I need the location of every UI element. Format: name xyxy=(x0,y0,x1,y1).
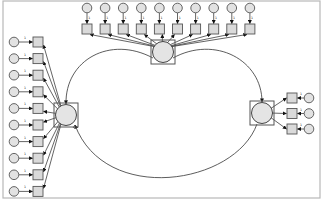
observed-variable[interactable] xyxy=(191,24,201,34)
error-term[interactable] xyxy=(9,137,19,147)
observed-variable[interactable] xyxy=(136,24,146,34)
observed-variable[interactable] xyxy=(173,24,183,34)
observed-variable[interactable] xyxy=(287,109,297,119)
error-term[interactable] xyxy=(245,3,255,13)
error-term[interactable] xyxy=(191,3,201,13)
latent-variable-right[interactable] xyxy=(252,103,273,124)
observed-variable[interactable] xyxy=(154,24,164,34)
sem-diagram-canvas: 11111111111111111111111 xyxy=(0,0,324,203)
observed-variable[interactable] xyxy=(33,70,43,80)
observed-variable[interactable] xyxy=(245,24,255,34)
error-term[interactable] xyxy=(173,3,183,13)
observed-variable[interactable] xyxy=(33,153,43,163)
observed-variable[interactable] xyxy=(33,137,43,147)
error-term[interactable] xyxy=(82,3,92,13)
loading-label: 1 xyxy=(300,92,302,96)
error-term[interactable] xyxy=(227,3,237,13)
observed-variable[interactable] xyxy=(227,24,237,34)
observed-variable[interactable] xyxy=(33,54,43,64)
loading-label: 1 xyxy=(106,16,108,20)
observed-variable[interactable] xyxy=(287,124,297,134)
observed-variable[interactable] xyxy=(33,186,43,196)
error-term[interactable] xyxy=(118,3,128,13)
latent-variable-top[interactable] xyxy=(153,42,174,63)
error-term[interactable] xyxy=(304,124,314,134)
sem-diagram: 11111111111111111111111 xyxy=(0,0,324,203)
error-term[interactable] xyxy=(9,70,19,80)
loading-label: 1 xyxy=(233,16,235,20)
observed-variable[interactable] xyxy=(209,24,219,34)
loading-label: 1 xyxy=(161,16,163,20)
error-term[interactable] xyxy=(9,170,19,180)
loading-label: 1 xyxy=(24,152,26,156)
loading-label: 1 xyxy=(300,108,302,112)
loading-label: 1 xyxy=(251,16,253,20)
loading-label: 1 xyxy=(124,16,126,20)
error-term[interactable] xyxy=(9,187,19,197)
error-term[interactable] xyxy=(9,120,19,130)
loading-label: 1 xyxy=(24,136,26,140)
loading-label: 1 xyxy=(197,16,199,20)
error-term[interactable] xyxy=(9,104,19,114)
loading-label: 1 xyxy=(179,16,181,20)
loading-label: 1 xyxy=(300,123,302,127)
error-term[interactable] xyxy=(100,3,110,13)
loading-label: 1 xyxy=(24,69,26,73)
loading-label: 1 xyxy=(24,36,26,40)
observed-variable[interactable] xyxy=(118,24,128,34)
observed-variable[interactable] xyxy=(100,24,110,34)
observed-variable[interactable] xyxy=(33,120,43,130)
error-term[interactable] xyxy=(137,3,147,13)
loading-label: 1 xyxy=(24,53,26,57)
loading-label: 1 xyxy=(143,16,145,20)
error-term[interactable] xyxy=(9,37,19,47)
loading-label: 1 xyxy=(88,16,90,20)
error-term[interactable] xyxy=(304,109,314,119)
latent-variable-left[interactable] xyxy=(56,105,77,126)
error-term[interactable] xyxy=(9,153,19,163)
observed-variable[interactable] xyxy=(287,93,297,103)
loading-label: 1 xyxy=(24,119,26,123)
observed-variable[interactable] xyxy=(33,87,43,97)
error-term[interactable] xyxy=(209,3,219,13)
loading-label: 1 xyxy=(215,16,217,20)
observed-variable[interactable] xyxy=(33,103,43,113)
loading-label: 1 xyxy=(24,169,26,173)
observed-variable[interactable] xyxy=(33,170,43,180)
error-term[interactable] xyxy=(155,3,165,13)
observed-variable[interactable] xyxy=(82,24,92,34)
error-term[interactable] xyxy=(304,93,314,103)
loading-label: 1 xyxy=(24,102,26,106)
error-term[interactable] xyxy=(9,87,19,97)
loading-label: 1 xyxy=(24,86,26,90)
observed-variable[interactable] xyxy=(33,37,43,47)
error-term[interactable] xyxy=(9,54,19,64)
loading-label: 1 xyxy=(24,185,26,189)
